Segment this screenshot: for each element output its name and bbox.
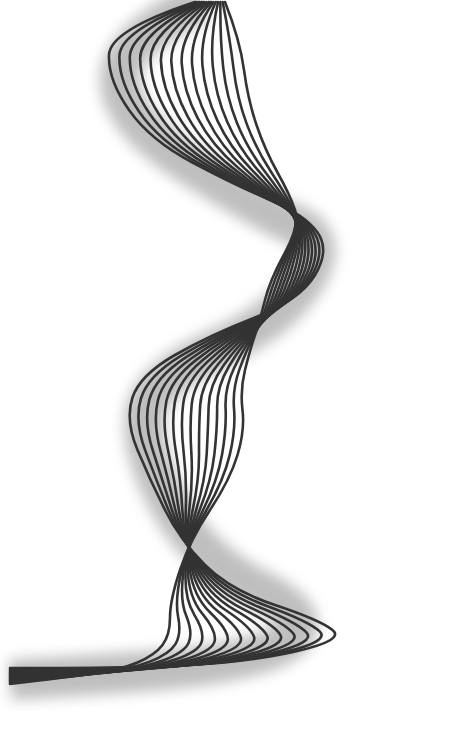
ribbon-curve [10, 2, 335, 668]
ribbon-lines [10, 2, 335, 684]
line-art-ribbon [0, 0, 453, 746]
